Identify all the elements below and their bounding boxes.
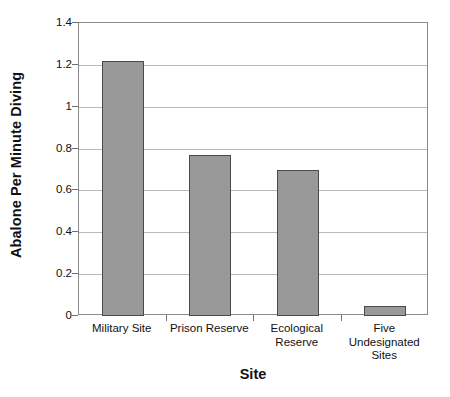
x-axis-category-label-line: Undesignated: [341, 336, 429, 350]
y-axis-tick-label: 0.2: [38, 267, 72, 279]
x-axis-category-label-line: Sites: [341, 349, 429, 363]
x-axis-category-label-line: Military Site: [78, 322, 166, 336]
y-axis-tick-mark: [72, 273, 78, 274]
x-axis-category-label: EcologicalReserve: [253, 322, 341, 349]
x-axis-tick-mark: [166, 315, 167, 321]
x-axis-category-label-line: Reserve: [253, 336, 341, 350]
x-axis-tick-mark: [253, 315, 254, 321]
y-axis-tick-label: 1.2: [38, 58, 72, 70]
bar: [189, 155, 231, 316]
y-axis-tick-label: 0.8: [38, 142, 72, 154]
y-axis-tick-labels: 00.20.40.60.811.21.4: [38, 0, 72, 397]
y-axis-tick-mark: [72, 189, 78, 190]
bar-chart: Abalone Per Minute Diving 00.20.40.60.81…: [0, 0, 450, 397]
y-axis-title: Abalone Per Minute Diving: [0, 0, 32, 330]
y-axis-tick-label: 0.4: [38, 225, 72, 237]
x-axis-category-label-line: Ecological: [253, 322, 341, 336]
y-axis-title-text: Abalone Per Minute Diving: [8, 72, 24, 258]
x-axis-category-label-line: Five: [341, 322, 429, 336]
y-axis-tick-mark: [72, 231, 78, 232]
bar: [102, 61, 144, 316]
plot-area: [78, 22, 428, 315]
y-axis-tick-label: 1: [38, 100, 72, 112]
bar: [277, 170, 319, 317]
x-axis-tick-mark: [341, 315, 342, 321]
x-axis-category-label: FiveUndesignatedSites: [341, 322, 429, 363]
y-axis-tick-label: 1.4: [38, 16, 72, 28]
y-axis-tick-mark: [72, 64, 78, 65]
x-axis-category-label-line: Prison Reserve: [166, 322, 254, 336]
y-axis-tick-mark: [72, 106, 78, 107]
x-axis-title: Site: [78, 366, 428, 382]
bar: [364, 306, 406, 316]
x-axis-category-label: Military Site: [78, 322, 166, 336]
y-axis-tick-label: 0: [38, 309, 72, 321]
x-axis-category-label: Prison Reserve: [166, 322, 254, 336]
y-axis-tick-mark: [72, 148, 78, 149]
y-axis-tick-mark: [72, 315, 78, 316]
y-axis-tick-label: 0.6: [38, 183, 72, 195]
y-axis-tick-mark: [72, 22, 78, 23]
